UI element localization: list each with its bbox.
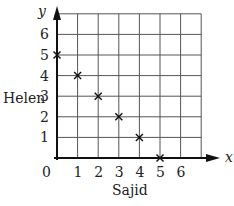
y-axis-label: Helen	[3, 91, 45, 105]
x-tick-label: 5	[156, 165, 165, 179]
y-tick-label: 6	[40, 27, 49, 41]
x-tick-label: 3	[115, 165, 124, 179]
x-axis-label: Sajid	[112, 183, 148, 197]
y-axis-symbol: y	[38, 4, 46, 18]
y-tick-label: 1	[40, 130, 49, 144]
x-axis-arrow-icon	[206, 154, 220, 162]
y-tick-label: 5	[40, 48, 49, 62]
y-tick-label: 2	[40, 110, 49, 124]
data-points	[54, 52, 164, 162]
x-axis-symbol: x	[225, 150, 233, 164]
x-tick-label: 0	[42, 165, 51, 179]
x-tick-label: 6	[177, 165, 186, 179]
x-tick-label: 4	[135, 165, 144, 179]
y-tick-label: 3	[40, 89, 49, 103]
y-axis-arrow-icon	[53, 6, 61, 20]
y-tick-label: 4	[40, 69, 49, 83]
x-tick-label: 1	[74, 165, 83, 179]
x-tick-label: 2	[94, 165, 103, 179]
grid-lines	[57, 14, 201, 158]
